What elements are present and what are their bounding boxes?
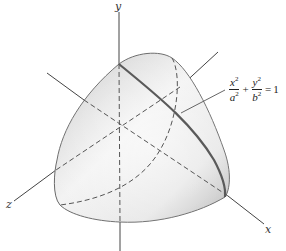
x-axis-back (47, 73, 84, 100)
equals-sign: = (265, 83, 271, 95)
ellipsoid-diagram: y x z (0, 0, 286, 251)
fraction-x: x2 a2 (229, 76, 239, 102)
fraction-y: y2 b2 (252, 76, 262, 102)
plus-sign: + (242, 83, 248, 95)
x-axis-front (228, 196, 264, 224)
y-axis-label: y (114, 0, 122, 13)
x-axis-label: x (265, 223, 272, 236)
equation-rhs: 1 (273, 83, 279, 95)
z-axis-label: z (5, 198, 12, 211)
ellipse-equation: x2 a2 + y2 b2 = 1 (228, 76, 279, 102)
z-axis-front (14, 170, 56, 201)
